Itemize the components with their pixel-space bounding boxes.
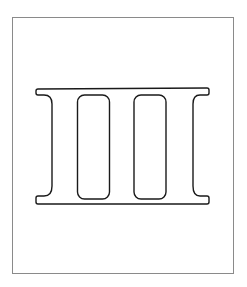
glyph-inner-counter-1 — [78, 95, 110, 199]
roman-numeral-three-outline — [0, 0, 247, 287]
glyph-outer-outline — [36, 88, 209, 204]
glyph-inner-counter-2 — [134, 95, 166, 199]
